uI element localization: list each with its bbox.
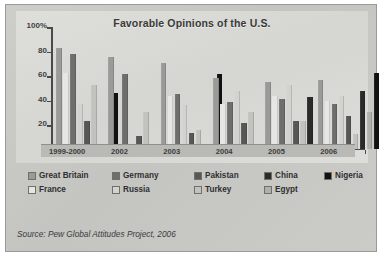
legend-swatch-icon [28,186,36,194]
bar [213,78,219,148]
y-tick-label: 100% [27,21,47,30]
legend-item[interactable]: France [28,185,66,194]
bar [91,85,97,148]
y-tick-label: 80 [38,46,47,55]
bar [318,80,324,148]
legend-row-2: FranceRussiaTurkeyEgypt [28,185,368,198]
bar [279,99,285,149]
bar [272,96,278,148]
x-axis-label: 2004 [198,147,250,156]
legend-item[interactable]: Nigeria [324,171,363,180]
bar [168,96,174,148]
bar [307,97,313,148]
legend-swatch-icon [324,172,332,180]
legend-label: Russia [123,185,150,194]
legend-row-1: Great BritainGermanyPakistanChinaNigeria [28,171,368,184]
legend-label: Turkey [205,185,231,194]
x-axis-category-band: 1999-200020022003200420052006 [41,144,355,157]
bar [227,102,233,148]
figure: Favorable Opinions of the U.S. 020406080… [0,0,382,256]
bar [63,73,69,148]
x-axis-label: 1999-2000 [41,147,93,156]
x-axis-label: 2003 [146,147,198,156]
legend-item[interactable]: Pakistan [194,171,239,180]
plot-area: Favorable Opinions of the U.S. 020406080… [16,11,368,163]
bar-container [51,27,365,149]
bar [339,96,345,148]
bar [332,104,338,149]
bar [108,57,114,148]
bar [367,112,373,148]
bar [234,91,240,148]
legend-swatch-icon [28,172,36,180]
legend-label: China [275,171,298,180]
bar [161,63,167,148]
legend-item[interactable]: Turkey [194,185,231,194]
legend-label: Great Britain [39,171,89,180]
legend-label: Egypt [275,185,298,194]
legend-swatch-icon [194,172,202,180]
legend-swatch-icon [264,172,272,180]
bar [374,73,380,148]
x-axis-label: 2005 [250,147,302,156]
legend-item[interactable]: Egypt [264,185,298,194]
legend-swatch-icon [194,186,202,194]
legend-label: Nigeria [335,171,363,180]
legend-label: Pakistan [205,171,239,180]
y-tick-label: 60 [38,70,47,79]
bar [286,85,292,148]
x-tick-mark [365,150,366,154]
source-note: Source: Pew Global Attitudes Project, 20… [17,229,176,239]
y-tick-label: 20 [38,119,47,128]
bar [360,91,366,148]
x-axis-label: 2006 [303,147,355,156]
bar [182,105,188,149]
y-tick-label: 40 [38,95,47,104]
axes: 020406080100% [51,27,365,150]
legend-item[interactable]: Great Britain [28,171,89,180]
bar [56,48,62,149]
legend-swatch-icon [264,186,272,194]
bar [77,104,83,149]
legend-swatch-icon [112,172,120,180]
legend-item[interactable]: China [264,171,298,180]
legend-item[interactable]: Germany [112,171,159,180]
chart-legend: Great BritainGermanyPakistanChinaNigeria… [28,171,368,201]
bar [265,82,271,149]
bar [175,94,181,149]
bar-group [318,27,380,149]
bar [220,104,226,149]
legend-swatch-icon [112,186,120,194]
legend-label: France [39,185,66,194]
chart-panel: Favorable Opinions of the U.S. 020406080… [5,4,377,252]
legend-label: Germany [123,171,159,180]
bar [122,74,128,148]
bar [325,101,331,148]
legend-item[interactable]: Russia [112,185,150,194]
bar [70,54,76,149]
x-axis-label: 2002 [93,147,145,156]
